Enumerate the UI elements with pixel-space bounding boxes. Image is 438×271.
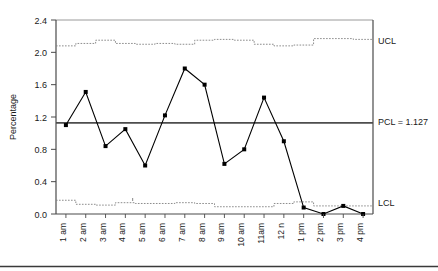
data-series-line: [66, 69, 363, 215]
y-axis-title: Percentage: [8, 94, 18, 140]
x-axis-tick-labels: 1 am2 am3 am4 am5 am6 am7 am8 am9 am10 a…: [58, 223, 365, 247]
y-tick-label-0.8: 0.8: [34, 145, 47, 155]
x-tick-label-9: 9 am: [216, 223, 226, 242]
y-tick-label-0.4: 0.4: [34, 177, 47, 187]
x-tick-label-1: 1 am: [58, 223, 68, 242]
data-series-markers: [64, 67, 365, 217]
ucl-path: [56, 39, 373, 46]
x-tick-label-8: 8 am: [197, 223, 207, 242]
x-tick-label-13: 1 pm: [296, 223, 306, 242]
x-tick-label-7: 7 am: [177, 223, 187, 242]
data-point-marker: [64, 123, 68, 127]
data-point-marker: [104, 144, 108, 148]
data-point-marker: [183, 67, 187, 71]
x-tick-label-14: 2 pm: [315, 223, 325, 242]
data-point-marker: [242, 147, 246, 151]
data-point-marker: [143, 164, 147, 168]
annotation-pcl: PCL = 1.127: [378, 117, 428, 127]
y-tick-label-1.6: 1.6: [34, 80, 47, 90]
data-point-marker: [84, 90, 88, 94]
data-point-marker: [163, 113, 167, 117]
data-point-marker: [302, 206, 306, 210]
x-tick-label-2: 2 am: [78, 223, 88, 242]
x-tick-label-11: 11am: [256, 223, 266, 244]
scan-speck: [132, 198, 133, 201]
x-tick-label-16: 4 pm: [355, 223, 365, 242]
x-tick-label-12: 12 n: [276, 223, 286, 240]
data-point-marker: [262, 96, 266, 100]
control-chart-figure: 2.4 2.0 1.6 1.2 0.8 0.4 0.0 Percentage 1…: [0, 0, 438, 271]
x-tick-label-5: 5 am: [137, 223, 147, 242]
data-point-marker: [123, 127, 127, 131]
data-point-marker: [222, 162, 226, 166]
y-axis-ticks: 2.4 2.0 1.6 1.2 0.8 0.4 0.0: [34, 16, 56, 220]
series-path: [66, 69, 363, 215]
annotation-ucl: UCL: [378, 36, 396, 46]
y-tick-label-2.0: 2.0: [34, 48, 47, 58]
data-point-marker: [282, 139, 286, 143]
lcl-path: [56, 200, 373, 206]
ucl-step-line: [56, 39, 373, 46]
x-tick-label-6: 6 am: [157, 223, 167, 242]
x-tick-label-15: 3 pm: [335, 223, 345, 242]
annotation-lcl: LCL: [378, 198, 395, 208]
y-tick-label-1.2: 1.2: [34, 113, 47, 123]
y-tick-label-0.0: 0.0: [34, 210, 47, 220]
x-tick-label-3: 3 am: [98, 223, 108, 242]
y-tick-label-2.4: 2.4: [34, 16, 47, 26]
x-tick-label-10: 10 am: [236, 223, 246, 247]
x-axis-ticks: [66, 214, 363, 218]
plot-frame: [56, 20, 373, 214]
data-point-marker: [203, 83, 207, 87]
data-point-marker: [341, 204, 345, 208]
lcl-step-line: [56, 200, 373, 206]
x-tick-label-4: 4 am: [117, 223, 127, 242]
control-chart-svg: 2.4 2.0 1.6 1.2 0.8 0.4 0.0 Percentage 1…: [0, 0, 438, 271]
